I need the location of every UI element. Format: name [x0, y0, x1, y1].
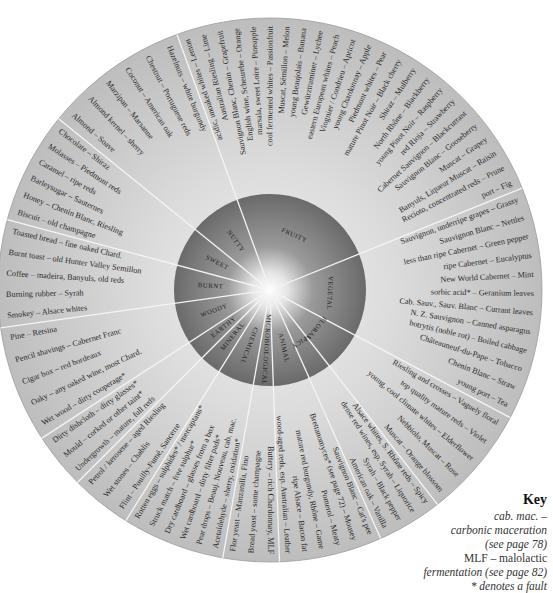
- key-line-carbonic: carbonic maceration: [423, 523, 547, 537]
- aroma-label: cool fermented whites – Passionfruit: [265, 25, 274, 146]
- key-line-fermentation: fermentation (see page 82): [423, 565, 547, 579]
- key-line-fault: * denotes a fault: [423, 579, 547, 593]
- aroma-label: Buttery – rich Chardonnay, MLF: [266, 446, 275, 554]
- aroma-label: sorbic acid* – Geranium leaves: [431, 287, 534, 298]
- key-legend: Key cab. mac. – carbonic maceration (see…: [423, 492, 547, 593]
- key-title: Key: [423, 492, 547, 508]
- key-line-mlf: MLF – malolactic: [423, 551, 547, 565]
- key-line-cab-mac: cab. mac. –: [423, 509, 547, 523]
- aroma-label: Burning rubber – Syrah: [6, 288, 84, 298]
- key-line-page78: (see page 78): [423, 537, 547, 551]
